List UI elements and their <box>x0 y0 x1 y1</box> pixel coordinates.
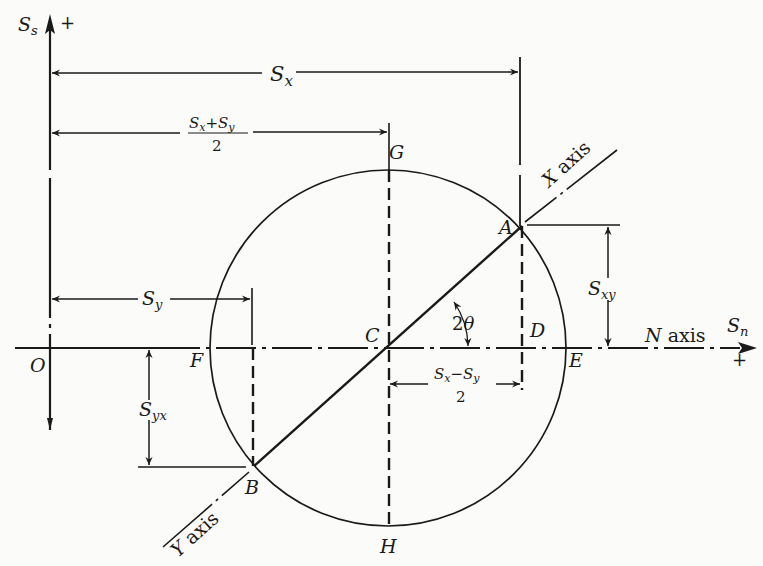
mean-stress-numerator: Sx+Sy <box>189 114 235 134</box>
syx-label: Syx <box>139 398 167 423</box>
x-axis-label: Xaxis <box>535 136 594 192</box>
ss-axis-label: Ss <box>18 13 38 38</box>
origin-label-o: O <box>30 354 46 376</box>
point-c-label: C <box>365 324 380 346</box>
half-difference-denominator: 2 <box>456 388 466 406</box>
mohr-circle-diagram: Ss + O Naxis Sn + Sx Sx+Sy 2 <box>0 0 763 566</box>
shear-stress-axis: Ss + <box>18 12 75 430</box>
mean-stress-denominator: 2 <box>212 137 222 155</box>
sn-axis-label: Sn <box>727 314 748 339</box>
sy-label: Sy <box>142 287 163 312</box>
point-g-label: G <box>389 141 404 163</box>
n-axis-label: Naxis <box>644 324 706 346</box>
ss-axis-plus-sign: + <box>60 12 75 33</box>
point-b-label: B <box>244 476 259 498</box>
sxy-label: Sxy <box>588 277 616 302</box>
syx-dimension: Syx <box>139 350 167 465</box>
sx-label: Sx <box>270 62 293 90</box>
point-a-label: A <box>497 216 513 238</box>
angle-2theta-label: 2θ <box>452 313 474 334</box>
point-f-label: F <box>189 349 204 371</box>
angle-2theta: 2θ <box>452 302 474 346</box>
point-h-label: H <box>379 535 397 557</box>
half-difference-numerator: Sx−Sy <box>434 365 480 385</box>
y-axis-label: Yaxis <box>166 507 223 561</box>
sxy-dimension: Sxy <box>588 227 616 346</box>
sx-dimension: Sx <box>52 62 518 90</box>
half-difference-dimension: Sx−Sy 2 <box>390 365 520 406</box>
point-d-label: D <box>529 319 545 341</box>
axis-arrow-down-icon <box>47 418 53 430</box>
sn-axis-plus-sign: + <box>732 349 747 370</box>
point-e-label: E <box>568 349 583 371</box>
mean-stress-dimension: Sx+Sy 2 <box>52 114 387 155</box>
normal-stress-axis: O Naxis Sn + <box>15 314 757 376</box>
